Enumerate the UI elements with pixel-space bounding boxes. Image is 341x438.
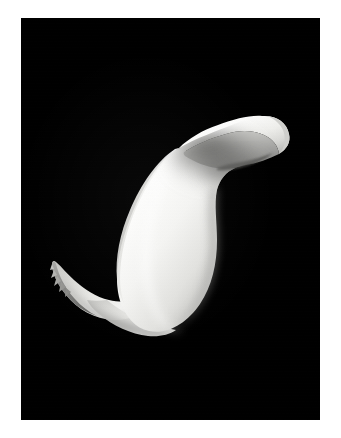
photograph-black-field xyxy=(21,18,320,420)
image-canvas: Curved white paper ribbon on black backg… xyxy=(0,0,341,438)
paper-ribbon-artwork xyxy=(21,18,320,420)
